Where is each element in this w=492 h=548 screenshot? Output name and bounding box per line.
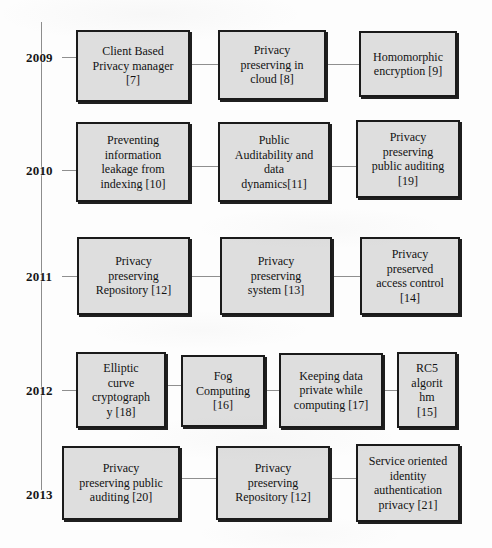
connector-2012-3-to-4 (383, 390, 397, 391)
node-label: Public Auditability and data dynamics[11… (232, 133, 316, 191)
node-2012-4[interactable]: RC5 algorit hm [15] (397, 352, 457, 428)
node-2009-3[interactable]: Homomorphic encryption [9] (359, 31, 457, 97)
node-label: Privacy preserved access control [14] (373, 247, 447, 305)
connector-2012-2-to-3 (265, 390, 279, 391)
node-2010-1[interactable]: Preventing information leakage from inde… (76, 122, 190, 202)
connector-2013-2-to-3 (330, 478, 356, 479)
node-2013-3[interactable]: Service oriented identity authentication… (356, 444, 460, 522)
connector-2013-1-to-2 (180, 478, 216, 479)
connector-2010-2-to-3 (330, 166, 356, 167)
node-label: Privacy preserving public auditing [19] (369, 130, 447, 188)
node-label: Keeping data private while computing [17… (291, 369, 371, 413)
connector-2009-1-to-2 (190, 64, 218, 65)
node-label: Privacy preserving public auditing [20] (76, 461, 166, 505)
node-2013-2[interactable]: Privacy preserving Repository [12] (216, 446, 330, 520)
node-label: Privacy preserving Repository [12] (93, 254, 175, 298)
node-label: Homomorphic encryption [9] (370, 50, 446, 79)
year-label-2012: 2012 (26, 383, 53, 399)
node-2011-1[interactable]: Privacy preserving Repository [12] (77, 237, 190, 315)
node-label: Privacy preserving in cloud [8] (238, 43, 307, 87)
year-label-2011: 2011 (26, 269, 52, 285)
node-label: Privacy preserving Repository [12] (232, 461, 314, 505)
node-2009-1[interactable]: Client Based Privacy manager [7] (76, 30, 190, 102)
year-label-2009: 2009 (26, 50, 53, 66)
node-2013-1[interactable]: Privacy preserving public auditing [20] (62, 446, 180, 520)
node-label: Privacy preserving system [13] (245, 254, 307, 298)
node-label: Elliptic curve cryptograph y [18] (89, 361, 153, 419)
node-2010-3[interactable]: Privacy preserving public auditing [19] (356, 120, 460, 198)
connector-2011-to-node-1 (62, 276, 78, 277)
node-label: Preventing information leakage from inde… (98, 133, 169, 191)
node-2012-3[interactable]: Keeping data private while computing [17… (279, 353, 383, 428)
node-2012-1[interactable]: Elliptic curve cryptograph y [18] (76, 352, 166, 428)
node-2010-2[interactable]: Public Auditability and data dynamics[11… (218, 122, 330, 202)
year-label-2013: 2013 (26, 487, 53, 503)
node-label: Fog Computing [16] (193, 369, 253, 413)
node-2012-2[interactable]: Fog Computing [16] (181, 355, 265, 427)
connector-2012-1-to-2 (166, 385, 181, 386)
year-label-2010: 2010 (26, 163, 53, 179)
timeline-diagram: 2009 Client Based Privacy manager [7] Pr… (0, 0, 492, 548)
node-2011-2[interactable]: Privacy preserving system [13] (220, 237, 332, 315)
connector-2011-1-to-2 (190, 276, 220, 277)
connector-2010-1-to-2 (190, 166, 218, 167)
connector-2011-2-to-3 (332, 276, 360, 277)
connector-2009-2-to-3 (326, 64, 359, 65)
timeline-axis (41, 22, 42, 490)
node-label: RC5 algorit hm [15] (408, 361, 445, 419)
node-label: Service oriented identity authentication… (366, 454, 450, 512)
node-label: Client Based Privacy manager [7] (90, 44, 177, 88)
node-2011-3[interactable]: Privacy preserved access control [14] (360, 237, 460, 315)
node-2009-2[interactable]: Privacy preserving in cloud [8] (218, 30, 326, 100)
